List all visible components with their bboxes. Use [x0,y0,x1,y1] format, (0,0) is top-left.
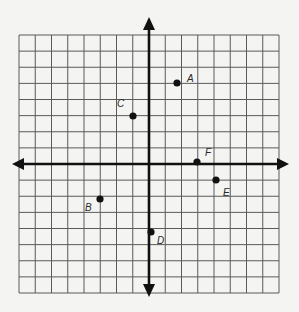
point-E-label: E [223,187,230,198]
y-axis-down-arrow-icon [143,284,155,297]
axes [12,17,289,297]
coordinate-plane: A C F E B D [0,0,299,312]
y-axis-up-arrow-icon [143,17,155,30]
point-F-dot [193,158,200,165]
point-F-label: F [205,147,212,158]
point-B: B [85,195,104,213]
point-B-dot [96,195,103,202]
x-axis-right-arrow-icon [277,158,289,170]
point-D-label: D [157,235,164,246]
point-C-dot [129,112,136,119]
plotted-points: A C F E B D [85,73,230,246]
point-C: C [117,98,137,120]
point-A: A [173,73,194,87]
point-D-dot [147,228,154,235]
x-axis-left-arrow-icon [12,158,24,170]
point-C-label: C [117,98,125,109]
point-A-dot [173,79,180,86]
point-E-dot [212,176,219,183]
coordinate-plane-figure: A C F E B D [0,0,299,312]
point-B-label: B [85,202,92,213]
point-A-label: A [186,73,194,84]
